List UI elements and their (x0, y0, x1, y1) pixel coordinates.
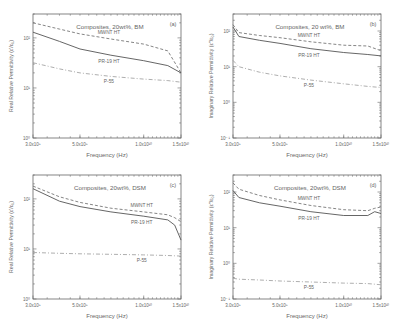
y-tick-label: 10¹ (223, 226, 230, 231)
x-tick-label: 1.0x10¹⁰ (135, 303, 152, 308)
figure-grid: 10⁰10¹10²3.0x10⁹5.0x10⁹1.0x10¹⁰1.5x10¹⁰F… (0, 0, 395, 328)
panel-d: 10⁻¹10⁰10¹10²3.0x10⁹5.0x10⁹1.0x10¹⁰1.5x1… (208, 175, 390, 319)
x-tick-label: 5.0x10⁹ (72, 142, 88, 147)
series-line-mwnt-ht (33, 186, 181, 222)
series-label: MWNT HT (298, 33, 321, 38)
figure-svg: 10⁰10¹10²3.0x10⁹5.0x10⁹1.0x10¹⁰1.5x10¹⁰F… (0, 0, 395, 328)
panel-title: Composites, 20wt%, BM (76, 23, 143, 30)
series-label: PR-19 HT (98, 59, 119, 64)
panel-letter: (a) (170, 21, 177, 27)
panel-b: 10⁻¹10⁰10¹10²3.0x10⁹5.0x10⁹1.0x10¹⁰1.5x1… (208, 14, 390, 158)
panel-title: Composites, 20wt%, DSM (74, 184, 146, 191)
plot-frame (233, 175, 381, 299)
y-tick-label: 10² (223, 190, 230, 195)
series-line-p-55 (33, 253, 181, 257)
panel-title: Composites, 20 wt%, BM (275, 23, 344, 30)
x-axis-label: Frequency (Hz) (86, 313, 127, 319)
x-tick-label: 1.5x10¹⁰ (372, 142, 389, 147)
x-tick-label: 3.0x10⁹ (25, 142, 41, 147)
x-tick-label: 5.0x10⁹ (72, 303, 88, 308)
panel-c: 10⁰10¹10²3.0x10⁹5.0x10⁹1.0x10¹⁰1.5x10¹⁰F… (8, 175, 190, 319)
x-tick-label: 3.0x10⁹ (225, 303, 241, 308)
y-axis-label: Imaginary Relative Permittivity (ε''/ε₀) (208, 194, 214, 279)
x-tick-label: 3.0x10⁹ (225, 142, 241, 147)
y-tick-label: 10⁻¹ (220, 297, 230, 302)
series-label: P-55 (304, 83, 314, 88)
x-tick-label: 1.0x10¹⁰ (335, 303, 352, 308)
x-axis-label: Frequency (Hz) (286, 313, 327, 319)
x-tick-label: 5.0x10⁹ (272, 142, 288, 147)
y-tick-label: 10⁰ (23, 136, 30, 141)
x-tick-label: 5.0x10⁹ (272, 303, 288, 308)
y-tick-label: 10⁻¹ (220, 136, 230, 141)
x-axis-label: Frequency (Hz) (86, 152, 127, 158)
series-label: PR-19 HT (298, 53, 319, 58)
series-line-pr-19-ht (233, 27, 381, 56)
panel-letter: (c) (170, 182, 177, 188)
y-tick-label: 10¹ (223, 65, 230, 70)
y-axis-label: Real Relative Permittivity (ε'/ε₀) (8, 201, 14, 273)
panel-title: Composites, 20wt%, DSM (274, 184, 346, 191)
series-line-p-55 (233, 278, 381, 285)
x-tick-label: 1.5x10¹⁰ (172, 303, 189, 308)
plot-frame (33, 175, 181, 299)
panel-letter: (d) (370, 182, 377, 188)
y-tick-label: 10⁰ (23, 297, 30, 302)
series-label: MWNT HT (98, 30, 121, 35)
series-line-pr-19-ht (33, 189, 181, 240)
x-axis-label: Frequency (Hz) (286, 152, 327, 158)
y-tick-label: 10² (23, 36, 30, 41)
y-tick-label: 10¹ (23, 247, 30, 252)
series-label: MWNT HT (298, 196, 321, 201)
y-tick-label: 10⁰ (223, 261, 230, 266)
series-label: PR-19 HT (298, 216, 319, 221)
x-tick-label: 1.0x10¹⁰ (135, 142, 152, 147)
panel-letter: (b) (370, 21, 377, 27)
y-tick-label: 10² (23, 197, 30, 202)
y-tick-label: 10² (223, 29, 230, 34)
series-label: MWNT HT (130, 203, 153, 208)
x-tick-label: 1.5x10¹⁰ (172, 142, 189, 147)
series-label: PR-19 HT (131, 220, 152, 225)
panel-a: 10⁰10¹10²3.0x10⁹5.0x10⁹1.0x10¹⁰1.5x10¹⁰F… (8, 14, 190, 158)
x-tick-label: 3.0x10⁹ (25, 303, 41, 308)
x-tick-label: 1.5x10¹⁰ (372, 303, 389, 308)
y-axis-label: Imaginary Relative Permittivity (ε''/ε₀) (208, 33, 214, 118)
series-label: P-55 (137, 258, 147, 263)
series-label: P-55 (104, 79, 114, 84)
y-axis-label: Real Relative Permittivity (ε'/ε₀) (8, 40, 14, 112)
series-label: P-55 (304, 285, 314, 290)
x-tick-label: 1.0x10¹⁰ (335, 142, 352, 147)
y-tick-label: 10¹ (23, 86, 30, 91)
y-tick-label: 10⁰ (223, 100, 230, 105)
